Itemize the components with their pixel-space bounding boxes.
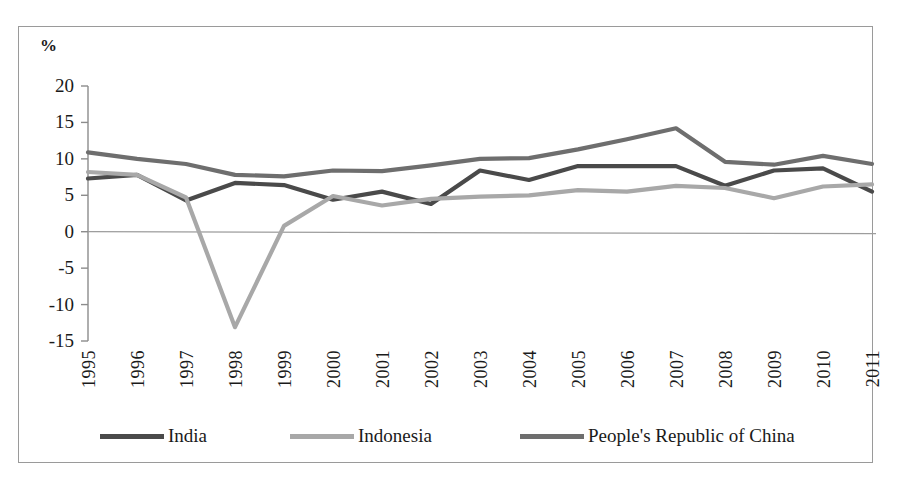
x-axis-tick-label: 2003 [471, 350, 492, 388]
y-axis-unit-label: % [40, 36, 57, 56]
x-axis-tick-label: 1996 [128, 350, 149, 388]
legend-entry-people-s-republic-of-china[interactable]: People's Republic of China [520, 425, 795, 447]
x-axis-tick-label: 2009 [765, 350, 786, 388]
x-axis-tick-label: 1997 [177, 350, 198, 388]
x-axis-tick-label: 2002 [422, 350, 443, 388]
x-axis-tick-label: 2011 [863, 350, 884, 387]
y-axis-tick-label: -5 [26, 258, 74, 277]
chart-figure: % 20151050-5-10-15 199519961997199819992… [0, 0, 897, 488]
x-axis-tick-label: 2004 [520, 350, 541, 388]
y-axis-tick-label: -15 [26, 331, 74, 350]
legend-label: India [168, 425, 207, 447]
x-axis-tick-label: 1995 [79, 350, 100, 388]
legend-color-swatch [100, 434, 164, 439]
y-axis-tick-label: -10 [26, 295, 74, 314]
y-axis-tick-label: 15 [26, 112, 74, 131]
x-axis-tick-label: 2008 [716, 350, 737, 388]
x-axis-tick-label: 1998 [226, 350, 247, 388]
legend-entry-india[interactable]: India [100, 425, 207, 447]
legend-label: People's Republic of China [588, 425, 795, 447]
x-axis-tick-label: 1999 [275, 350, 296, 388]
x-axis-tick-label: 2000 [324, 350, 345, 388]
chart-legend: IndiaIndonesiaPeople's Republic of China [0, 417, 897, 451]
y-axis-tick-label: 5 [26, 185, 74, 204]
x-axis-tick-label: 2005 [569, 350, 590, 388]
y-axis-tick-label: 20 [26, 76, 74, 95]
x-axis-tick-label: 2007 [667, 350, 688, 388]
chart-frame [18, 26, 873, 463]
legend-label: Indonesia [358, 425, 432, 447]
x-axis-tick-label: 2001 [373, 350, 394, 388]
legend-entry-indonesia[interactable]: Indonesia [290, 425, 432, 447]
legend-color-swatch [290, 434, 354, 439]
y-axis-tick-label: 10 [26, 149, 74, 168]
x-axis-tick-label: 2010 [814, 350, 835, 388]
legend-color-swatch [520, 434, 584, 439]
x-axis-tick-label: 2006 [618, 350, 639, 388]
y-axis-tick-label: 0 [26, 222, 74, 241]
